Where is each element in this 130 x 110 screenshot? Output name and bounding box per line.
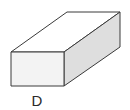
figure-label: D <box>30 93 44 108</box>
prism-diagram <box>0 0 130 110</box>
front-face <box>11 52 64 86</box>
